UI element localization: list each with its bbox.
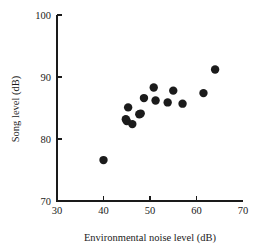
x-tick-label-30: 30 <box>52 205 63 216</box>
data-point-13 <box>199 89 207 97</box>
data-point-3 <box>124 103 132 111</box>
data-point-10 <box>163 98 171 106</box>
data-point-8 <box>150 83 158 91</box>
y-axis-title: Song level (dB) <box>10 75 22 142</box>
data-points-group <box>99 65 219 164</box>
data-point-9 <box>151 96 159 104</box>
data-point-12 <box>178 99 186 107</box>
data-point-6 <box>137 109 145 117</box>
data-point-7 <box>140 94 148 102</box>
x-axis-title: Environmental noise level (dB) <box>84 232 217 244</box>
y-tick-label-80: 80 <box>41 134 52 145</box>
y-tick-label-90: 90 <box>41 72 52 83</box>
axes-group <box>57 15 243 201</box>
x-tick-label-60: 60 <box>191 205 202 216</box>
data-point-14 <box>211 65 219 73</box>
x-tick-label-50: 50 <box>145 205 156 216</box>
x-tick-label-40: 40 <box>98 205 109 216</box>
y-tick-label-100: 100 <box>35 10 51 21</box>
data-point-4 <box>128 120 136 128</box>
data-point-0 <box>99 156 107 164</box>
plot-canvas: 3040506070708090100 Environmental noise … <box>0 0 254 248</box>
y-tick-label-70: 70 <box>41 196 52 207</box>
x-tick-label-70: 70 <box>238 205 249 216</box>
data-point-11 <box>169 86 177 94</box>
axis-spine <box>57 15 243 201</box>
scatter-plot-figure: 3040506070708090100 Environmental noise … <box>0 0 254 248</box>
